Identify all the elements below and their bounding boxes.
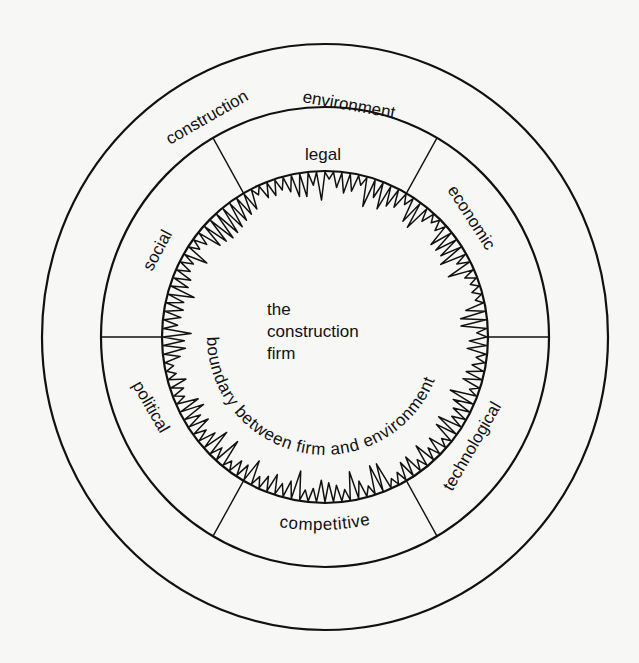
sector-label-competitive: competitive — [279, 510, 372, 535]
outer-label-construction: construction — [163, 86, 252, 148]
firm-environment-diagram: construction environment legal economic … — [0, 0, 639, 663]
center-label-line-3: firm — [267, 344, 295, 363]
boundary-label: boundary between firm and environment — [203, 336, 439, 459]
sector-divider-line — [213, 138, 244, 193]
outer-label-environment: environment — [301, 87, 397, 122]
center-label-line-2: construction — [267, 322, 359, 341]
sector-divider-line — [407, 481, 438, 536]
sector-label-political: political — [129, 378, 174, 437]
center-label-line-1: the — [267, 300, 291, 319]
sector-divider-line — [407, 138, 438, 193]
sector-label-social: social — [139, 227, 176, 274]
sector-label-legal: legal — [305, 145, 341, 164]
sector-divider-line — [213, 481, 244, 536]
